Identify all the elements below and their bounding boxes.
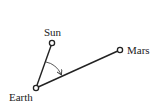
angle-arc	[46, 62, 61, 74]
sun-marker	[49, 40, 54, 45]
sun-label: Sun	[44, 26, 62, 38]
mars-label: Mars	[127, 44, 150, 56]
earth-marker	[33, 85, 38, 90]
diagram-canvas: Sun Earth Mars	[0, 0, 157, 109]
mars-marker	[117, 47, 122, 52]
earth-mars-line	[36, 50, 120, 88]
earth-label: Earth	[9, 91, 33, 103]
